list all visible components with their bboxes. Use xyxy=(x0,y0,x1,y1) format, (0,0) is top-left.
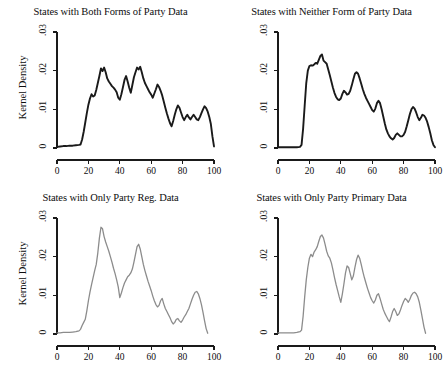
x-tick-label: 100 xyxy=(421,352,447,362)
x-tick-label: 100 xyxy=(421,166,447,176)
y-tick-label: .02 xyxy=(38,59,48,79)
x-tick-label: 20 xyxy=(295,166,323,176)
x-tick-label: 60 xyxy=(137,166,165,176)
plot-area xyxy=(0,186,221,372)
y-tick-label: .01 xyxy=(38,97,48,117)
y-tick-label: .02 xyxy=(259,245,269,265)
y-tick-label: .03 xyxy=(259,20,269,40)
x-tick-label: 20 xyxy=(74,352,102,362)
x-tick-label: 40 xyxy=(106,166,134,176)
x-tick-label: 0 xyxy=(264,352,292,362)
x-tick-label: 0 xyxy=(264,166,292,176)
plot-area xyxy=(221,186,442,372)
plot-area xyxy=(0,0,221,186)
panel-bottom-right: States with Only Party Primary Data.03.0… xyxy=(221,186,442,372)
y-tick-label: 0 xyxy=(259,136,269,156)
x-tick-label: 40 xyxy=(106,352,134,362)
density-curve xyxy=(57,67,214,147)
x-tick-label: 40 xyxy=(327,166,355,176)
y-tick-label: .03 xyxy=(38,20,48,40)
y-axis-label: Kernel Density xyxy=(17,48,28,128)
y-tick-label: .03 xyxy=(38,206,48,226)
x-tick-label: 60 xyxy=(137,352,165,362)
y-tick-label: .02 xyxy=(259,59,269,79)
y-tick-label: 0 xyxy=(259,322,269,342)
y-tick-label: .01 xyxy=(38,283,48,303)
x-tick-label: 0 xyxy=(43,352,71,362)
panel-top-left: States with Both Forms of Party Data.03.… xyxy=(0,0,221,186)
y-axis-label: Kernel Density xyxy=(17,234,28,314)
x-tick-label: 20 xyxy=(74,166,102,176)
density-curve xyxy=(278,235,426,333)
y-tick-label: .01 xyxy=(259,283,269,303)
x-tick-label: 80 xyxy=(169,166,197,176)
x-tick-label: 80 xyxy=(390,166,418,176)
y-tick-label: .02 xyxy=(38,245,48,265)
density-curve xyxy=(57,227,208,333)
plot-area xyxy=(221,0,442,186)
x-tick-label: 80 xyxy=(169,352,197,362)
panel-top-right: States with Neither Form of Party Data.0… xyxy=(221,0,442,186)
x-tick-label: 80 xyxy=(390,352,418,362)
y-tick-label: 0 xyxy=(38,322,48,342)
x-tick-label: 60 xyxy=(358,352,386,362)
x-tick-label: 40 xyxy=(327,352,355,362)
x-tick-label: 60 xyxy=(358,166,386,176)
y-tick-label: .01 xyxy=(259,97,269,117)
y-tick-label: .03 xyxy=(259,206,269,226)
x-tick-label: 0 xyxy=(43,166,71,176)
density-curve xyxy=(278,54,435,147)
x-tick-label: 20 xyxy=(295,352,323,362)
panel-bottom-left: States with Only Party Reg. Data.03.02.0… xyxy=(0,186,221,372)
y-tick-label: 0 xyxy=(38,136,48,156)
